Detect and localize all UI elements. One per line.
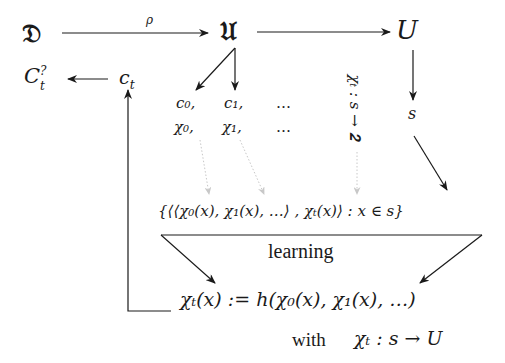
arrow-s-to-set [414, 136, 447, 190]
c0: c₀, [176, 96, 195, 111]
node-D: 𝔇 [22, 20, 41, 46]
node-U: U [396, 17, 418, 43]
chi1: χ₁, [222, 120, 242, 135]
node-s: s [408, 106, 416, 122]
training-set-expression: {⟨⟨χ₀(x), χ₁(x), …⟩ , χₜ(x)⟩ : x ∈ s} [158, 204, 404, 219]
ct-base: c [119, 66, 130, 88]
arrow-Ufrak-to-c0 [196, 48, 235, 90]
node-ct: ct [119, 68, 135, 87]
learning-left-arrow [161, 235, 215, 283]
c1: c₁, [224, 96, 243, 111]
dotted-arrow-chi1 [240, 140, 264, 194]
chi-ellipsis: … [276, 120, 291, 135]
feedback-arrow [128, 90, 171, 311]
with-label: with [292, 330, 326, 349]
dotted-arrow-chi0 [200, 140, 209, 194]
node-Ufrak: 𝔘 [220, 18, 237, 44]
chi-t-to-two-rotated: χₜ : s → 𝟐 [346, 52, 364, 162]
c-ellipsis: … [276, 96, 291, 111]
learning-label: learning [268, 241, 334, 261]
Ct-base: C [24, 64, 40, 88]
ct-sub: t [130, 78, 135, 92]
with-formula: χₜ : s → U [354, 329, 442, 348]
rho-label: ρ [146, 14, 153, 26]
node-Ct-question: C?t [24, 66, 40, 87]
chi0: χ₀, [174, 120, 194, 135]
learning-right-arrow [420, 235, 482, 283]
learned-function-formula: χₜ(x) := h(χ₀(x), χ₁(x), …) [180, 290, 416, 309]
Ct-sup: ? [40, 65, 46, 77]
Ct-sub: t [40, 80, 45, 92]
